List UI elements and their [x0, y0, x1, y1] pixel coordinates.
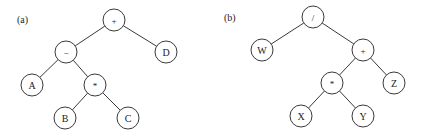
tree-node-b-slash: /: [302, 6, 324, 28]
node-label: +: [111, 16, 116, 26]
node-label: X: [297, 111, 305, 122]
node-label: D: [162, 47, 169, 58]
node-label: W: [257, 45, 267, 56]
tree-node-a-C: C: [117, 107, 139, 129]
tree-edge: [340, 91, 356, 108]
tree-edge: [371, 58, 387, 75]
tree-edge: [40, 60, 58, 78]
tree-nodes: +−DA*BC/W+*ZXY: [21, 6, 405, 129]
tree-node-a-star: *: [84, 74, 106, 96]
node-label: −: [63, 48, 68, 58]
tree-node-b-X: X: [290, 105, 312, 127]
tree-edge: [72, 93, 87, 110]
tree-node-b-Y: Y: [352, 105, 374, 127]
node-label: Z: [391, 78, 397, 89]
node-label: *: [93, 81, 98, 91]
tree-edge: [340, 58, 356, 75]
tree-edge: [322, 23, 354, 44]
node-label: C: [125, 113, 132, 124]
tree-edge: [73, 60, 87, 76]
node-label: *: [330, 79, 335, 89]
tree-edges: [40, 23, 387, 110]
node-label: +: [360, 46, 365, 56]
tree-node-b-plus: +: [352, 39, 374, 61]
tree-edge: [103, 93, 120, 110]
node-label: Y: [359, 111, 366, 122]
tree-edge: [271, 23, 304, 44]
panel-label-b: (b): [224, 12, 236, 24]
tree-node-a-B: B: [54, 107, 76, 129]
panel-label-a: (a): [17, 14, 28, 26]
tree-node-a-plus: +: [103, 9, 125, 31]
node-label: B: [62, 113, 69, 124]
tree-node-a-D: D: [155, 41, 177, 63]
tree-edge: [123, 26, 156, 46]
expression-trees-diagram: (a) (b) +−DA*BC/W+*ZXY: [0, 0, 426, 134]
tree-node-b-star: *: [321, 72, 343, 94]
tree-edge: [309, 91, 325, 108]
tree-edge: [75, 26, 105, 46]
node-label: A: [28, 80, 36, 91]
tree-node-a-A: A: [21, 74, 43, 96]
tree-node-b-W: W: [251, 39, 273, 61]
tree-node-a-minus: −: [55, 41, 77, 63]
tree-node-b-Z: Z: [383, 72, 405, 94]
